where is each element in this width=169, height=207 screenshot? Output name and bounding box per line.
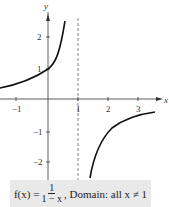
x-tick-label: 3 bbox=[136, 104, 141, 114]
caption-lhs: f(x) = bbox=[14, 188, 39, 200]
function-caption: f(x) = 1 1 − x , Domain: all x ≠ 1 bbox=[10, 180, 151, 207]
x-tick-label: 1 bbox=[76, 104, 81, 114]
x-tick-label: 2 bbox=[106, 104, 111, 114]
x-axis-label: x bbox=[163, 95, 168, 105]
y-tick-label: 1 bbox=[37, 64, 42, 74]
curve-left-branch bbox=[0, 21, 65, 88]
y-axis-label: y bbox=[43, 1, 48, 11]
y-tick-label: −2 bbox=[33, 157, 43, 167]
x-axis-arrow-icon bbox=[156, 97, 163, 101]
function-plot: y x −1 1 2 3 2 1 −1 −2 bbox=[0, 0, 169, 207]
x-tick-label: −1 bbox=[12, 104, 22, 114]
y-axis-arrow-icon bbox=[46, 14, 50, 21]
y-tick-label: 2 bbox=[37, 32, 42, 42]
y-tick-label: −1 bbox=[33, 127, 43, 137]
fraction: 1 1 − x bbox=[41, 183, 62, 204]
curve-right-branch bbox=[90, 112, 155, 178]
tick-marks bbox=[16, 37, 138, 162]
fraction-denominator: 1 − x bbox=[41, 194, 62, 204]
caption-domain: , Domain: all x ≠ 1 bbox=[64, 188, 147, 200]
